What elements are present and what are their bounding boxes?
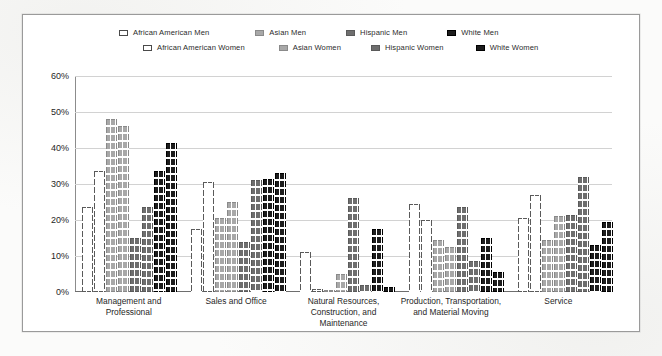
legend-item-african-american-men[interactable]: African American Men [119, 28, 209, 37]
bar-white-women [602, 222, 613, 292]
y-axis-tick-label: 60% [51, 71, 69, 81]
bar-african-american-men [191, 229, 202, 292]
bar-african-american-men [300, 252, 311, 292]
bar-african-american-men [82, 207, 93, 292]
legend-item-african-american-women[interactable]: African American Women [143, 43, 245, 52]
bar-hispanic-women [469, 261, 480, 292]
y-axis-tick-label: 30% [51, 179, 69, 189]
bar-asian-women [445, 247, 456, 292]
legend-item-label: African American Men [133, 28, 209, 37]
y-axis-tick-label: 50% [51, 107, 69, 117]
bar-african-american-women [94, 171, 105, 292]
bar-groups [75, 76, 612, 292]
swatch-dark-gray-icon [371, 45, 380, 51]
bar-asian-men [542, 240, 553, 292]
swatch-light-gray-icon [279, 45, 288, 51]
bar-group [402, 76, 511, 292]
bar-white-women [275, 173, 286, 292]
bar-hispanic-men [566, 215, 577, 292]
legend-item-white-women[interactable]: White Women [476, 43, 539, 52]
legend-row-women: African American WomenAsian WomenHispani… [23, 40, 639, 55]
bar-white-men [372, 229, 383, 292]
legend-item-hispanic-men[interactable]: Hispanic Men [346, 28, 407, 37]
bar-african-american-women [421, 220, 432, 292]
chart-legend: African American MenAsian MenHispanic Me… [23, 25, 639, 55]
legend-item-label: White Women [490, 43, 539, 52]
y-axis-tick-label: 40% [51, 143, 69, 153]
plot-area: 0%10%20%30%40%50%60% [75, 76, 612, 292]
bar-african-american-women [203, 182, 214, 292]
bar-african-american-women [312, 289, 323, 292]
bar-white-men [481, 238, 492, 292]
bar-group [184, 76, 293, 292]
legend-item-hispanic-women[interactable]: Hispanic Women [371, 43, 444, 52]
bar-white-men [590, 245, 601, 292]
x-axis-category-label: Management and Professional [75, 296, 182, 329]
bar-hispanic-women [578, 177, 589, 292]
x-axis-category-label: Sales and Office [182, 296, 289, 329]
bar-hispanic-women [251, 180, 262, 292]
legend-row-men: African American MenAsian MenHispanic Me… [23, 25, 639, 40]
y-axis-tick-label: 20% [51, 215, 69, 225]
bar-hispanic-men [348, 198, 359, 292]
bar-african-american-men [518, 218, 529, 292]
bar-group [293, 76, 402, 292]
legend-item-label: Hispanic Men [360, 28, 407, 37]
bar-asian-men [106, 119, 117, 292]
legend-item-white-men[interactable]: White Men [447, 28, 498, 37]
bar-hispanic-women [142, 207, 153, 292]
legend-item-label: Hispanic Women [385, 43, 444, 52]
bar-white-women [384, 287, 395, 292]
bar-african-american-women [530, 195, 541, 292]
bar-hispanic-men [239, 242, 250, 292]
legend-item-label: Asian Women [293, 43, 341, 52]
bar-hispanic-men [130, 238, 141, 292]
y-axis-tick-label: 0% [56, 287, 69, 297]
bar-white-men [154, 171, 165, 292]
bar-asian-women [554, 216, 565, 292]
bar-asian-women [118, 126, 129, 292]
bar-african-american-men [409, 204, 420, 292]
bar-group [75, 76, 184, 292]
bar-white-men [263, 179, 274, 292]
bar-white-women [166, 143, 177, 292]
y-axis-tick-label: 10% [51, 251, 69, 261]
bar-hispanic-women [360, 285, 371, 292]
bar-asian-women [227, 202, 238, 292]
swatch-light-gray-icon [255, 30, 264, 36]
bar-white-women [493, 272, 504, 292]
swatch-white-outline-icon [143, 45, 152, 51]
swatch-black-icon [476, 45, 485, 51]
chart-frame: African American MenAsian MenHispanic Me… [22, 14, 640, 332]
legend-item-label: White Men [461, 28, 498, 37]
bar-asian-men [215, 218, 226, 292]
x-axis-labels: Management and ProfessionalSales and Off… [75, 296, 612, 329]
x-axis-category-label: Production, Transportation, and Material… [397, 296, 504, 329]
bar-group [511, 76, 620, 292]
swatch-white-outline-icon [119, 30, 128, 36]
x-axis-category-label: Service [505, 296, 612, 329]
bar-asian-men [433, 240, 444, 292]
bar-asian-women [336, 274, 347, 292]
legend-item-label: Asian Men [269, 28, 306, 37]
bar-hispanic-men [457, 207, 468, 292]
legend-item-asian-men[interactable]: Asian Men [255, 28, 306, 37]
bar-asian-men [324, 290, 335, 292]
swatch-dark-gray-icon [346, 30, 355, 36]
x-axis-category-label: Natural Resources, Construction, and Mai… [290, 296, 397, 329]
legend-item-asian-women[interactable]: Asian Women [279, 43, 341, 52]
swatch-black-icon [447, 30, 456, 36]
legend-item-label: African American Women [157, 43, 245, 52]
